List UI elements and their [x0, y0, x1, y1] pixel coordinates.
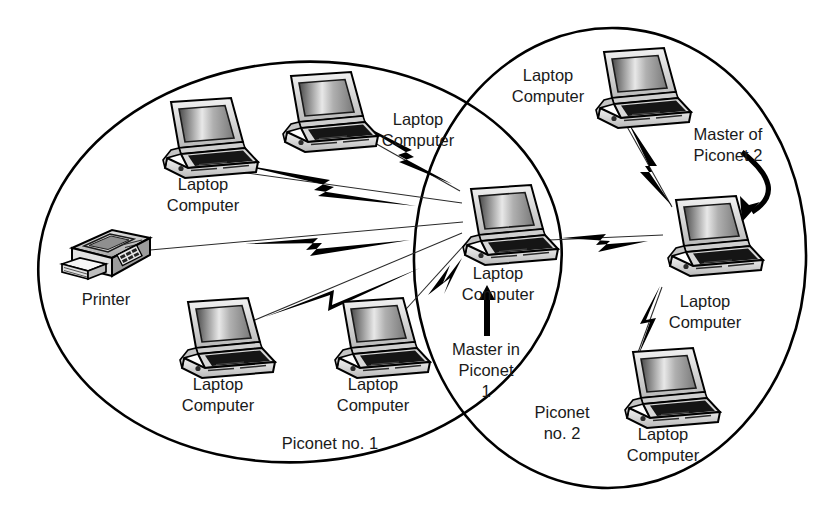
laptop-5-label-line-1: Laptop	[523, 66, 573, 84]
laptop-6[interactable]	[625, 348, 720, 428]
laptop-3-label-line-1: Laptop	[193, 375, 243, 393]
printer-1[interactable]	[62, 230, 150, 279]
laptop-6-label-line-2: Computer	[627, 446, 700, 464]
master-in-piconet-1-line-1: Master in	[452, 340, 520, 358]
laptop-4-label-line-2: Computer	[337, 396, 410, 414]
master-of-piconet-2-line-1: Master of	[694, 125, 763, 143]
master-of-piconet-2-line-2: Piconet 2	[694, 146, 763, 164]
laptop-1[interactable]	[163, 98, 258, 178]
laptop-4-label-line-1: Laptop	[348, 375, 398, 393]
laptop-master-2-label-line-1: Laptop	[680, 292, 730, 310]
laptop-5-label-line-2: Computer	[512, 87, 585, 105]
laptop-master-1-label-line-2: Computer	[462, 285, 535, 303]
laptop-master-1-label-line-1: Laptop	[473, 264, 523, 282]
laptop-1-label-line-2: Computer	[167, 196, 240, 214]
link-master1-to-master2	[549, 234, 663, 252]
piconet-1-label: Piconet no. 1	[282, 434, 378, 452]
devices	[62, 48, 763, 428]
laptop-4[interactable]	[335, 298, 430, 378]
laptop-2-label-line-1: Laptop	[393, 110, 443, 128]
link-laptop-5-to-master2	[625, 122, 672, 207]
laptop-2-label-line-2: Computer	[382, 131, 455, 149]
laptop-6-label-line-1: Laptop	[638, 425, 688, 443]
laptop-master-2-label-line-2: Computer	[669, 313, 742, 331]
scatternet-diagram: Laptop Computer Laptop Computer Printer …	[0, 0, 840, 514]
master-in-piconet-1-line-3: 1	[481, 382, 490, 400]
laptop-3-label-line-2: Computer	[182, 396, 255, 414]
laptop-1-label-line-1: Laptop	[178, 175, 228, 193]
printer-1-label: Printer	[82, 290, 131, 308]
master-in-piconet-1-line-2: Piconet	[458, 361, 513, 379]
link-laptop-4-to-master	[398, 243, 466, 318]
laptop-2[interactable]	[283, 72, 378, 152]
laptop-3[interactable]	[180, 298, 275, 378]
link-laptop-1-to-master	[232, 163, 462, 206]
diagram-canvas: Laptop Computer Laptop Computer Printer …	[0, 0, 840, 514]
piconet-2-label-line-1: Piconet	[534, 403, 589, 421]
laptop-master-1[interactable]	[463, 185, 558, 265]
laptop-5[interactable]	[596, 48, 691, 128]
link-laptop-6-to-master2	[636, 286, 662, 358]
piconet-2-label-line-2: no. 2	[544, 424, 581, 442]
